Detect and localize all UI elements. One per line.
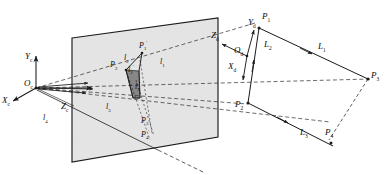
object-y-axis	[247, 30, 254, 56]
dot-P2-img	[125, 69, 128, 72]
object-z-axis-label: Zd	[211, 31, 219, 42]
object-line-L3-label: L3	[300, 128, 308, 139]
image-line-l2p-label: l2′	[128, 65, 134, 76]
camera-z-axis-label: Zc	[61, 102, 68, 113]
ray-l4-label: l4	[43, 114, 48, 124]
ray-l2-label: l2	[124, 54, 129, 64]
object-x-axis	[243, 56, 247, 80]
object-point-P2-label: P2	[235, 100, 243, 111]
object-origin-dot	[246, 55, 249, 58]
object-line-L3	[248, 103, 333, 146]
diagram-svg	[0, 0, 389, 175]
image-point-P3-label: P3′	[141, 116, 149, 127]
figure-canvas: Yc Xc Zc Oc l4 l3 l1 l2 P1′ P2 l2′ l3′ P…	[0, 0, 389, 175]
camera-y-axis-label: Yc	[25, 52, 32, 63]
camera-origin-label: Oc	[24, 79, 33, 90]
object-y-axis-label: Yd	[248, 18, 256, 29]
object-line-L1	[259, 28, 368, 79]
dot-P3	[367, 78, 370, 81]
object-origin-label: Od	[234, 46, 243, 57]
object-line-direction-arrows	[252, 48, 312, 123]
object-point-P3-label: P3	[371, 71, 379, 82]
camera-x-axis-label: Xc	[2, 96, 10, 107]
object-point-P1-label: P1	[262, 12, 270, 23]
image-point-P4-label: P4′	[141, 130, 149, 141]
object-line-L1-label: L1	[318, 42, 326, 53]
object-x-axis-label: Xd	[228, 62, 236, 73]
ray-l3-label: l3	[106, 103, 111, 113]
dot-P2	[247, 102, 250, 105]
dot-P1	[258, 27, 261, 30]
object-line-L2-label: L2	[264, 40, 272, 51]
object-point-P4-label: P4	[325, 128, 333, 139]
image-line-l3p-label: l3′	[135, 82, 141, 93]
image-point-P2-label: P2	[110, 61, 117, 71]
image-point-P1-label: P1′	[139, 41, 147, 52]
object-line-P3P4	[329, 79, 368, 140]
ray-l1-label: l1	[160, 58, 165, 68]
dot-P1-img	[141, 52, 144, 55]
camera-origin-dot	[35, 87, 38, 90]
dot-P4	[330, 142, 333, 145]
